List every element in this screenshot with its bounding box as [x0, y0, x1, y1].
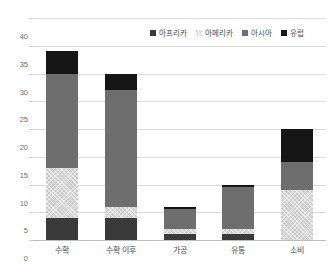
bar-group[interactable]	[281, 129, 313, 240]
bar-series-layer	[33, 18, 326, 240]
y-tick-label-30: 30	[20, 87, 28, 96]
bar-segment-africa[interactable]	[164, 234, 196, 240]
y-tick-label-25: 25	[20, 115, 28, 124]
bar-segment-america[interactable]	[281, 190, 313, 240]
bar-segment-europe[interactable]	[281, 129, 313, 162]
legend-label: 아메리카	[205, 27, 233, 38]
y-tick-mark-40	[29, 18, 33, 19]
legend-swatch-africa-icon	[150, 30, 156, 36]
y-axis-labels: 0510152025303540	[0, 18, 28, 240]
bar-group[interactable]	[105, 74, 137, 240]
x-tick-label: 소비	[290, 244, 304, 255]
bar-segment-europe[interactable]	[105, 74, 137, 91]
y-tick-mark-0	[29, 240, 33, 241]
legend-item-europe[interactable]: 유럽	[281, 27, 304, 38]
bar-segment-asia[interactable]	[281, 162, 313, 190]
y-tick-mark-30	[29, 74, 33, 75]
y-tick-label-35: 35	[20, 59, 28, 68]
bar-segment-america[interactable]	[46, 168, 78, 218]
y-tick-label-5: 5	[24, 226, 28, 235]
x-tick-label: 수확 이후	[106, 244, 136, 255]
bar-segment-asia[interactable]	[222, 187, 254, 229]
y-tick-mark-5	[29, 212, 33, 213]
legend-item-america[interactable]: 아메리카	[196, 27, 233, 38]
y-tick-mark-35	[29, 46, 33, 47]
y-tick-label-20: 20	[20, 143, 28, 152]
stacked-bar-chart: 0510152025303540 수확수확 이후가공유통소비 아프리카아메리카아…	[0, 0, 336, 272]
legend-item-africa[interactable]: 아프리카	[150, 27, 187, 38]
bar-group[interactable]	[164, 207, 196, 240]
legend-label: 아프리카	[159, 27, 187, 38]
legend-swatch-europe-icon	[281, 30, 287, 36]
legend-item-asia[interactable]: 아시아	[242, 27, 272, 38]
bar-segment-africa[interactable]	[46, 218, 78, 240]
bar-segment-asia[interactable]	[164, 209, 196, 228]
y-tick-label-0: 0	[24, 254, 28, 263]
legend-label: 유럽	[290, 27, 304, 38]
y-tick-mark-20	[29, 129, 33, 130]
x-axis-labels: 수확수확 이후가공유통소비	[33, 244, 326, 260]
chart-legend: 아프리카아메리카아시아유럽	[150, 27, 304, 38]
bar-segment-asia[interactable]	[105, 90, 137, 207]
bar-segment-europe[interactable]	[46, 51, 78, 73]
plot-area	[33, 18, 326, 240]
bar-segment-america[interactable]	[105, 207, 137, 218]
gridline-0	[33, 240, 326, 241]
y-tick-mark-25	[29, 101, 33, 102]
y-tick-label-10: 10	[20, 198, 28, 207]
y-tick-mark-15	[29, 157, 33, 158]
x-tick-label: 수확	[55, 244, 69, 255]
bar-group[interactable]	[222, 185, 254, 240]
bar-segment-africa[interactable]	[222, 234, 254, 240]
y-tick-label-15: 15	[20, 170, 28, 179]
y-tick-mark-10	[29, 185, 33, 186]
legend-swatch-america-icon	[196, 30, 202, 36]
y-tick-label-40: 40	[20, 32, 28, 41]
bar-segment-africa[interactable]	[105, 218, 137, 240]
bar-segment-asia[interactable]	[46, 74, 78, 168]
x-tick-label: 가공	[173, 244, 187, 255]
bar-group[interactable]	[46, 51, 78, 240]
legend-swatch-asia-icon	[242, 30, 248, 36]
x-tick-label: 유통	[231, 244, 245, 255]
legend-label: 아시아	[251, 27, 272, 38]
